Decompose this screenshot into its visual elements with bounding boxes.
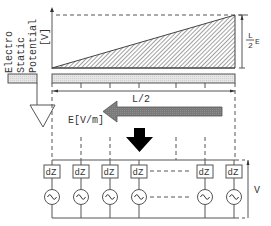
ground-symbol-icon <box>30 105 55 127</box>
circuit-column: dZ <box>73 160 89 218</box>
circuit-column: dZ <box>131 160 147 218</box>
height-dimension-arrowhead-icon <box>241 15 244 20</box>
potential-plot: Electro Static Potential [V] L 2 E <box>4 7 260 73</box>
potential-ramp-triangle <box>52 15 235 68</box>
equivalent-circuit: dZ dZ dZ dZ dZ <box>44 137 260 218</box>
circuit-column: dZ <box>226 160 242 218</box>
height-label-suffix: E <box>255 37 260 46</box>
impedance-label: dZ <box>228 168 239 178</box>
impedance-label: dZ <box>46 168 57 178</box>
length-label: L/2 <box>132 94 150 105</box>
y-label-line-1: Electro <box>4 31 15 73</box>
impedance-label: dZ <box>199 168 210 178</box>
field-label: E[V/m] <box>68 115 104 126</box>
electrode-ticks <box>81 83 205 88</box>
ground-electrode-stub <box>8 74 37 83</box>
length-dimension-left-arrowhead-icon <box>53 90 58 93</box>
length-dimension-right-arrowhead-icon <box>230 90 235 93</box>
height-label-denominator: 2 <box>248 41 253 50</box>
y-label-line-3: Potential <box>28 19 39 73</box>
diagram-canvas: Electro Static Potential [V] L 2 E <box>0 0 271 226</box>
field-arrow-icon <box>103 101 222 122</box>
circuit-column: dZ <box>44 160 60 218</box>
electrode-bar <box>52 74 235 83</box>
height-label-numerator: L <box>248 31 253 40</box>
impedance-label: dZ <box>133 168 144 178</box>
y-axis-label: Electro Static Potential [V] <box>4 19 51 73</box>
electrode-assembly: L/2 <box>8 74 235 160</box>
circuit-column: dZ <box>102 160 118 218</box>
impedance-label: dZ <box>104 168 115 178</box>
voltage-label: V <box>254 185 260 196</box>
height-label: L 2 E <box>246 31 260 50</box>
circuit-column: dZ <box>197 160 213 218</box>
y-axis-arrowhead-icon <box>50 7 54 12</box>
impedance-label: dZ <box>75 168 86 178</box>
y-label-line-2: Static <box>16 37 27 73</box>
transform-down-arrow-icon <box>126 128 153 152</box>
voltage-dimension-arrowhead-icon <box>247 160 250 165</box>
y-label-line-4: [V] <box>40 28 51 46</box>
